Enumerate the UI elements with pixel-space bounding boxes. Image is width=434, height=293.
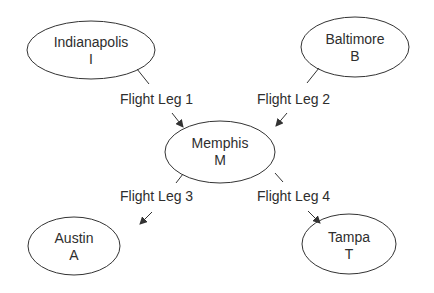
edge-leg2-tail (307, 68, 319, 83)
edge-leg3-arrow (140, 212, 152, 224)
edge-leg4-arrow (308, 211, 320, 223)
node-memphis-code: M (170, 152, 270, 169)
edge-label-leg1: Flight Leg 1 (120, 91, 193, 107)
node-baltimore-name: Baltimore (305, 31, 405, 48)
node-tampa: Tampa T (299, 229, 399, 263)
node-baltimore: Baltimore B (305, 31, 405, 65)
edge-leg3-tail (176, 174, 183, 183)
node-austin: Austin A (24, 230, 124, 264)
node-austin-code: A (24, 247, 124, 264)
edge-label-leg3: Flight Leg 3 (120, 188, 193, 204)
edge-label-leg2: Flight Leg 2 (257, 91, 330, 107)
node-austin-name: Austin (24, 230, 124, 247)
node-baltimore-code: B (305, 48, 405, 65)
node-indianapolis: Indianapolis I (41, 34, 141, 68)
node-indianapolis-name: Indianapolis (41, 34, 141, 51)
node-indianapolis-code: I (41, 51, 141, 68)
node-tampa-code: T (299, 246, 399, 263)
edge-leg2-arrow (276, 113, 287, 126)
node-memphis: Memphis M (170, 135, 270, 169)
edge-label-leg4: Flight Leg 4 (257, 188, 330, 204)
node-memphis-name: Memphis (170, 135, 270, 152)
node-tampa-name: Tampa (299, 229, 399, 246)
edge-leg4-tail (275, 173, 283, 182)
edge-leg1-tail (137, 69, 149, 84)
edge-leg1-arrow (172, 113, 183, 127)
